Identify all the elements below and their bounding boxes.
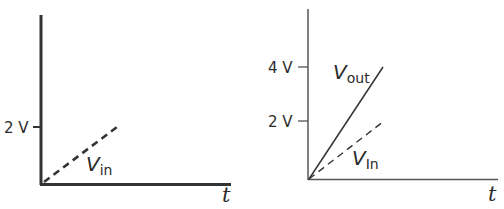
right-vout-label: Vout (333, 60, 370, 86)
right-graph: 4 V 2 V Vout VIn t (268, 9, 498, 206)
right-t-label: t (488, 182, 497, 206)
right-2v-label: 2 V (268, 113, 293, 131)
voltage-diagram: 2 V Vin t 4 V 2 V Vout VIn t (0, 0, 504, 209)
right-4v-label: 4 V (268, 59, 293, 77)
right-vin-label: VIn (352, 146, 379, 172)
left-t-label: t (222, 183, 231, 207)
left-2v-label: 2 V (4, 119, 29, 137)
left-vin-label: Vin (86, 152, 112, 178)
left-graph: 2 V Vin t (4, 15, 231, 207)
